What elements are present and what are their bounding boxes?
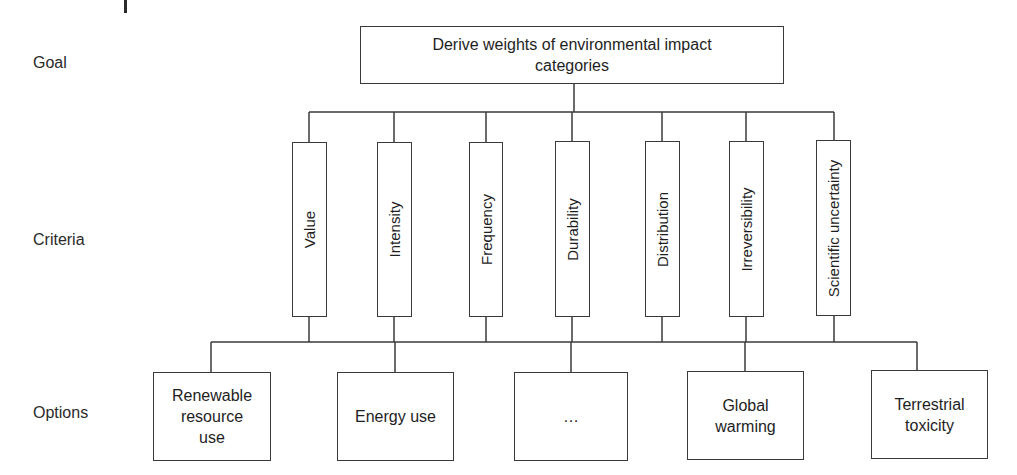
option-label-line: toxicity bbox=[894, 415, 964, 436]
option-label-line: use bbox=[172, 427, 252, 448]
criterion-box-intensity: Intensity bbox=[377, 142, 412, 317]
option-label-line: Terrestrial bbox=[894, 394, 964, 415]
criterion-box-durability: Durability bbox=[555, 141, 590, 317]
criterion-box-distribution: Distribution bbox=[645, 141, 680, 317]
row-label-criteria: Criteria bbox=[33, 231, 85, 249]
row-label-options: Options bbox=[33, 404, 88, 422]
criterion-label: Frequency bbox=[478, 194, 495, 265]
option-box-ellipsis: … bbox=[514, 372, 628, 461]
option-label-line: Renewable bbox=[172, 385, 252, 406]
option-box-global-warming: Global warming bbox=[687, 371, 804, 460]
criterion-label: Distribution bbox=[654, 191, 671, 266]
option-box-terrestrial-toxicity: Terrestrial toxicity bbox=[871, 370, 988, 459]
goal-text-line-1: Derive weights of environmental impact bbox=[432, 34, 711, 55]
criterion-label: Irreversibility bbox=[738, 187, 755, 271]
criterion-label: Value bbox=[301, 211, 318, 248]
criterion-label: Intensity bbox=[386, 202, 403, 258]
goal-box: Derive weights of environmental impact c… bbox=[360, 26, 784, 84]
option-label-line: … bbox=[563, 406, 579, 427]
criterion-box-frequency: Frequency bbox=[469, 142, 503, 317]
row-label-goal: Goal bbox=[33, 54, 67, 72]
option-box-energy-use: Energy use bbox=[337, 372, 454, 461]
option-label-line: warming bbox=[715, 416, 775, 437]
option-label-line: Energy use bbox=[355, 406, 436, 427]
criterion-box-value: Value bbox=[292, 142, 327, 317]
criterion-label: Scientific uncertainty bbox=[825, 159, 842, 297]
hierarchy-diagram: Goal Criteria Options Derive weights of … bbox=[0, 0, 1017, 475]
option-box-renewable-resource-use: Renewable resource use bbox=[153, 372, 271, 461]
option-label-line: Global bbox=[715, 395, 775, 416]
criterion-label: Durability bbox=[564, 198, 581, 261]
criterion-box-scientific-uncertainty: Scientific uncertainty bbox=[816, 140, 851, 316]
option-label-line: resource bbox=[172, 406, 252, 427]
criterion-box-irreversibility: Irreversibility bbox=[729, 141, 764, 317]
goal-text-line-2: categories bbox=[432, 55, 711, 76]
